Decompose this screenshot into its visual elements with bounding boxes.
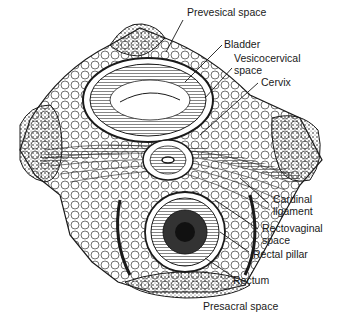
label-rectovaginal-space-line2: space — [262, 234, 290, 246]
label-rectal-pillar: Rectal pillar — [253, 248, 308, 260]
label-rectovaginal-space-line1: Rectovaginal — [262, 222, 323, 234]
label-vesicocervical-space-line2: space — [234, 64, 262, 76]
label-vesicocervical-space-line1: Vesicocervical — [234, 52, 301, 64]
label-cardinal-ligament-line1: Cardinal — [273, 193, 312, 205]
label-cervix: Cervix — [261, 76, 291, 88]
label-bladder: Bladder — [224, 38, 260, 50]
label-rectum: Rectum — [233, 274, 269, 286]
label-presacral-space: Presacral space — [203, 300, 278, 312]
label-prevesical-space: Prevesical space — [187, 6, 266, 18]
pelvic-cross-section-figure: Prevesical space Bladder Vesicocervical … — [0, 0, 338, 320]
label-cardinal-ligament-line2: ligament — [273, 205, 313, 217]
anatomy-illustration — [0, 0, 338, 320]
